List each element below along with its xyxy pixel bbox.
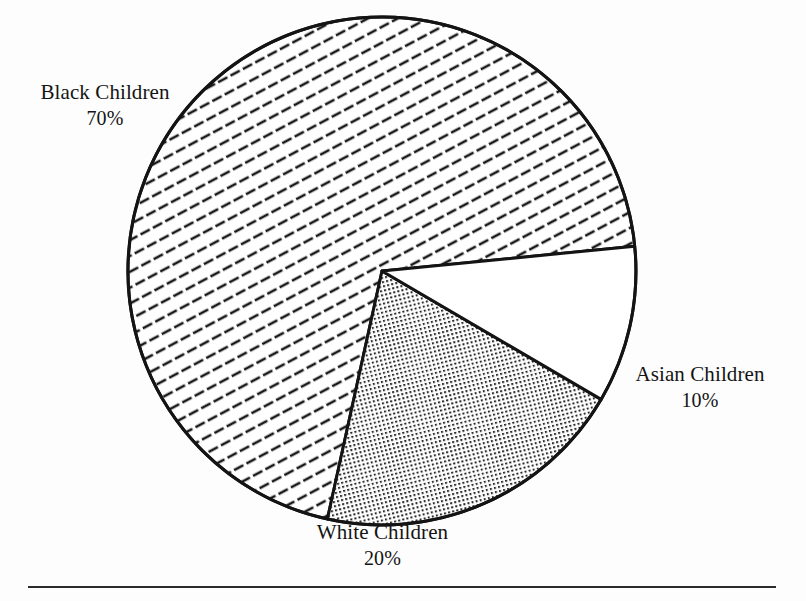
pie-label-black-children: Black Children 70% <box>10 80 200 130</box>
pie-label-white-children-name: White Children <box>265 520 500 546</box>
pie-chart-figure: Black Children 70% Asian Children 10% Wh… <box>0 0 806 601</box>
pie-label-black-children-value: 70% <box>10 106 200 130</box>
pie-label-white-children: White Children 20% <box>265 520 500 570</box>
pie-label-asian-children-name: Asian Children <box>600 362 800 388</box>
pie-label-white-children-value: 20% <box>265 546 500 570</box>
pie-label-asian-children: Asian Children 10% <box>600 362 800 412</box>
pie-label-black-children-name: Black Children <box>10 80 200 106</box>
pie-label-asian-children-value: 10% <box>600 388 800 412</box>
